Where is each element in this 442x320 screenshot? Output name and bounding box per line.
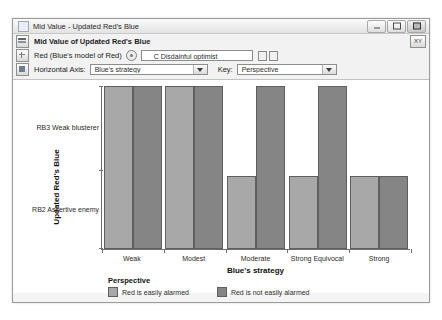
horizontal-axis-label: Horizontal Axis: xyxy=(34,65,86,74)
application-window: Mid Value - Updated Red's Blue Mid Value… xyxy=(12,18,430,303)
toolbar-area: Mid Value of Updated Red's Blue XY Red (… xyxy=(13,34,429,80)
window-icon xyxy=(18,21,29,32)
bar-group xyxy=(102,86,164,249)
x-tick-label: Weak xyxy=(101,255,163,262)
bar-group xyxy=(348,86,410,249)
toolbar-row-axis: Horizontal Axis: Blue's strategy Key: Pe… xyxy=(13,63,429,76)
title-bar: Mid Value - Updated Red's Blue xyxy=(13,19,429,34)
red-model-input[interactable]: C Disdainful optimist xyxy=(141,50,253,61)
x-tick-label: Strong Equivocal xyxy=(286,255,348,262)
bar-group xyxy=(287,86,349,249)
x-tick xyxy=(102,249,103,253)
x-tick-label: Moderate xyxy=(225,255,287,262)
x-tick-label: Strong xyxy=(348,255,410,262)
maximize-button[interactable] xyxy=(387,20,406,33)
close-button[interactable] xyxy=(407,20,426,33)
bar[interactable] xyxy=(256,86,285,249)
record-buttons xyxy=(258,51,278,61)
legend-swatch xyxy=(217,287,227,297)
chevron-down-icon[interactable] xyxy=(193,65,207,74)
bar-groups xyxy=(102,86,410,249)
key-label: Key: xyxy=(218,65,233,74)
x-tick xyxy=(226,249,227,253)
toolbar-row-header: Mid Value of Updated Red's Blue XY xyxy=(13,35,429,48)
x-tick-label: Modest xyxy=(163,255,225,262)
legend-swatch xyxy=(108,287,118,297)
chevron-down-icon[interactable] xyxy=(322,65,336,74)
bar[interactable] xyxy=(104,86,133,249)
bar[interactable] xyxy=(289,176,318,249)
legend: Perspective Red is easily alarmedRed is … xyxy=(108,276,310,297)
bar-group xyxy=(164,86,226,249)
legend-label: Red is not easily alarmed xyxy=(231,289,310,296)
plot-area xyxy=(101,86,410,250)
key-value: Perspective xyxy=(238,66,322,73)
table-icon[interactable] xyxy=(16,35,29,48)
bar[interactable] xyxy=(350,176,379,249)
bar[interactable] xyxy=(227,176,256,249)
horizontal-axis-value: Blue's strategy xyxy=(91,66,193,73)
bar-group xyxy=(225,86,287,249)
paste-icon[interactable] xyxy=(269,51,278,61)
bar[interactable] xyxy=(133,86,162,249)
bar[interactable] xyxy=(318,86,347,249)
spinner-icon[interactable] xyxy=(126,50,137,61)
legend-label: Red is easily alarmed xyxy=(122,289,189,296)
y-tick-label-rb3: RB3 Weak blusterer xyxy=(27,124,99,131)
copy-icon[interactable] xyxy=(258,51,267,61)
grid-icon[interactable] xyxy=(16,49,29,62)
legend-item[interactable]: Red is easily alarmed xyxy=(108,287,189,297)
legend-items: Red is easily alarmedRed is not easily a… xyxy=(108,287,310,297)
bar[interactable] xyxy=(379,176,408,249)
save-icon[interactable] xyxy=(16,63,29,76)
window-controls xyxy=(367,20,426,33)
key-select[interactable]: Perspective xyxy=(237,64,337,75)
x-tick xyxy=(164,249,165,253)
window-title: Mid Value - Updated Red's Blue xyxy=(33,22,367,31)
bar[interactable] xyxy=(194,86,223,249)
toolbar-row-red: Red (Blue's model of Red) C Disdainful o… xyxy=(13,49,429,62)
minimize-button[interactable] xyxy=(367,20,386,33)
legend-title: Perspective xyxy=(108,276,310,285)
panel-title: Mid Value of Updated Red's Blue xyxy=(34,37,150,46)
chart-area: Updated Red's Blue RB3 Weak blusterer RB… xyxy=(13,80,429,293)
y-tick-label-rb2: RB2 Assertive enemy xyxy=(27,206,99,213)
x-tick xyxy=(411,249,412,253)
x-tick xyxy=(287,249,288,253)
xy-button[interactable]: XY xyxy=(410,35,426,48)
bar[interactable] xyxy=(165,86,194,249)
horizontal-axis-select[interactable]: Blue's strategy xyxy=(90,64,208,75)
x-tick xyxy=(349,249,350,253)
legend-item[interactable]: Red is not easily alarmed xyxy=(217,287,310,297)
x-axis-label: Blue's strategy xyxy=(101,266,410,275)
red-model-label: Red (Blue's model of Red) xyxy=(34,51,122,60)
